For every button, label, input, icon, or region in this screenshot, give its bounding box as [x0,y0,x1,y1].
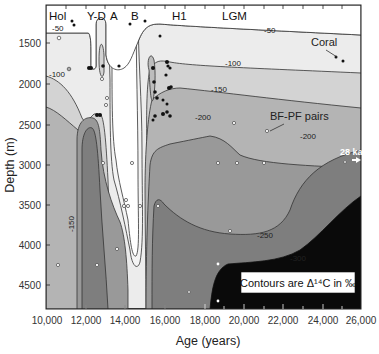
svg-text:1500: 1500 [19,38,42,49]
y-axis-title: Depth (m) [3,137,17,193]
svg-text:-50: -50 [264,26,276,35]
x-axis-title: Age (years) [176,334,241,348]
svg-text:-200: -200 [195,113,212,122]
svg-text:4500: 4500 [19,280,42,291]
svg-text:10,000: 10,000 [32,315,63,326]
svg-text:-250: -250 [257,231,274,240]
svg-text:-300: -300 [290,254,307,263]
contour-fills [46,5,361,309]
svg-text:A: A [110,10,118,22]
svg-text:18,000: 18,000 [190,315,221,326]
bfpf-label: BF-PF pairs [270,110,329,122]
28ka-label: 28 ka [340,147,364,157]
legend-box: Contours are Δ¹⁴C in ‰ [240,272,356,293]
svg-text:20,000: 20,000 [229,315,260,326]
svg-text:H1: H1 [172,10,187,22]
contour-chart: 1500 2000 2500 3000 3500 4000 4500 10,00… [0,0,379,354]
coral-label: Coral [311,36,337,48]
svg-text:12,000: 12,000 [71,315,102,326]
svg-text:3500: 3500 [19,200,42,211]
svg-text:22,000: 22,000 [268,315,299,326]
svg-text:-200: -200 [300,132,317,141]
svg-text:Contours are Δ¹⁴C in ‰: Contours are Δ¹⁴C in ‰ [240,277,356,289]
svg-text:24,000: 24,000 [308,315,339,326]
svg-text:LGM: LGM [222,10,247,22]
svg-text:3000: 3000 [19,160,42,171]
svg-text:2000: 2000 [19,79,42,90]
svg-text:Hol: Hol [49,10,66,22]
svg-text:-150: -150 [67,215,76,232]
svg-text:2500: 2500 [19,120,42,131]
svg-text:-50: -50 [52,24,64,33]
x-tick-labels: 10,000 12,000 14,000 16,000 18,000 20,00… [32,315,377,326]
lobe-yd [99,44,104,76]
svg-text:-150: -150 [211,85,228,94]
y-tick-labels: 1500 2000 2500 3000 3500 4000 4500 [19,38,42,291]
svg-text:26,000: 26,000 [346,315,377,326]
svg-text:B: B [131,10,139,22]
svg-text:4000: 4000 [19,240,42,251]
svg-text:16,000: 16,000 [150,315,181,326]
svg-text:14,000: 14,000 [110,315,141,326]
svg-text:-100: -100 [49,70,66,79]
svg-text:-100: -100 [225,59,242,68]
svg-text:Y-D: Y-D [87,10,106,22]
